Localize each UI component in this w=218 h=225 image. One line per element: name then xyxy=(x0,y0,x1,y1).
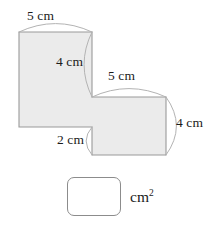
unit-exponent: 2 xyxy=(149,188,154,198)
leader-arc-middle xyxy=(92,89,166,98)
leader-arc-right xyxy=(166,97,177,155)
dimension-label-top: 5 cm xyxy=(27,9,54,23)
area-answer-input[interactable] xyxy=(67,177,121,216)
leader-arc-top xyxy=(19,24,92,33)
dimension-label-left: 4 cm xyxy=(56,55,83,69)
dimension-label-bottom: 2 cm xyxy=(57,133,84,147)
unit-text: cm xyxy=(130,188,149,205)
answer-unit-label: cm2 xyxy=(130,189,154,205)
stepped-polygon-fill xyxy=(19,32,166,155)
dimension-label-middle: 5 cm xyxy=(108,69,135,83)
dimension-label-right: 4 cm xyxy=(176,116,203,130)
leader-arc-bottom xyxy=(86,127,92,155)
answer-row: cm2 xyxy=(67,177,154,216)
